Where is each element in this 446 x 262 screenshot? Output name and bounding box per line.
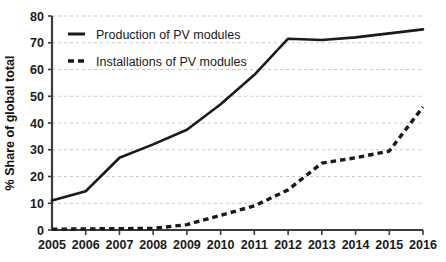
x-tick-label: 2009 [173,238,201,252]
y-tick-label: 50 [30,90,44,104]
x-tick-label: 2006 [72,238,100,252]
y-tick-label: 20 [30,170,44,184]
x-tick-label: 2012 [274,238,302,252]
chart-figure: 01020304050607080 2005200620072008200920… [0,0,446,262]
x-tick-label: 2011 [241,238,268,252]
y-tick-label: 0 [37,224,44,238]
legend-label-1: Production of PV modules [96,28,241,42]
y-axis-title: % Share of global total [3,56,17,191]
x-tick-label: 2013 [308,238,336,252]
x-tick-label: 2016 [409,238,437,252]
y-tick-label: 80 [30,10,44,24]
y-tick-label: 30 [30,143,44,157]
y-tick-label: 40 [30,117,44,131]
x-tick-label: 2005 [38,238,66,252]
x-tick-label: 2008 [139,238,167,252]
legend-label-2: Installations of PV modules [96,55,247,69]
line-chart-canvas: 01020304050607080 2005200620072008200920… [0,0,446,262]
y-tick-label: 60 [30,63,44,77]
y-tick-label: 10 [30,197,44,211]
x-tick-label: 2015 [375,238,403,252]
x-tick-label: 2010 [207,238,235,252]
y-tick-label: 70 [30,36,44,50]
x-tick-label: 2014 [342,238,370,252]
x-tick-label: 2007 [106,238,134,252]
